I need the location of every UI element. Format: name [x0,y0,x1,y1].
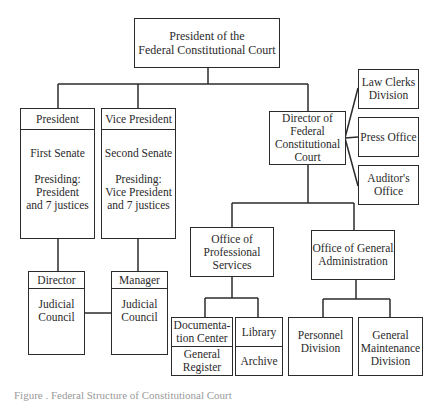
auditors-office-label: Auditor's Office [367,172,409,198]
press-office-box: Press Office [358,117,419,157]
law-clerks-box: Law Clerks Division [358,69,419,109]
director-council-header-label: Director [37,274,75,287]
press-office-label: Press Office [360,131,416,144]
first-senate-header: President [21,109,94,130]
first-senate-body: First Senate Presiding: President and 7 … [26,147,89,212]
documentation-register-box: Documenta- tion Center General Register [171,317,233,376]
first-senate-header-label: President [36,113,79,126]
second-senate-body: Second Senate Presiding: Vice President … [105,147,172,212]
second-senate-header: Vice President [102,109,175,130]
general-administration-label: Office of General Administration [313,242,394,268]
general-register-cell: General Register [172,347,232,375]
figure-caption: Figure . Federal Structure of Constituti… [14,389,232,401]
manager-council-box: Manager Judicial Council [111,271,168,355]
personnel-division-label: Personnel Division [298,329,343,355]
director-council-box: Director Judicial Council [28,271,85,355]
general-maintenance-box: General Maintenance Division [358,317,423,376]
director-council-body: Judicial Council [38,298,74,324]
law-clerks-label: Law Clerks Division [362,76,415,102]
professional-services-box: Office of Professional Services [190,227,274,277]
library-cell: Library [236,318,282,347]
personnel-division-box: Personnel Division [288,317,353,376]
general-register-label: General Register [183,348,221,374]
documentation-center-label: Documenta- tion Center [174,319,231,345]
director-fcc-label: Director of Federal Constitutional Court [275,112,340,164]
president-fcc-label: President of the Federal Constitutional … [138,29,275,57]
documentation-center-cell: Documenta- tion Center [172,318,232,347]
second-senate-box: Vice President Second Senate Presiding: … [101,108,176,239]
general-administration-box: Office of General Administration [311,230,395,280]
president-fcc-box: President of the Federal Constitutional … [134,18,280,68]
archive-label: Archive [240,355,277,368]
general-maintenance-label: General Maintenance Division [361,329,420,368]
professional-services-label: Office of Professional Services [204,233,261,272]
director-council-header: Director [29,272,84,289]
auditors-office-box: Auditor's Office [358,165,419,205]
library-archive-box: Library Archive [235,317,283,376]
first-senate-box: President First Senate Presiding: Presid… [20,108,95,239]
archive-cell: Archive [236,347,282,375]
library-label: Library [242,326,276,339]
director-fcc-box: Director of Federal Constitutional Court [269,111,346,165]
manager-council-body: Judicial Council [121,298,157,324]
manager-council-header-label: Manager [119,274,160,287]
second-senate-header-label: Vice President [105,113,172,126]
manager-council-header: Manager [112,272,167,289]
